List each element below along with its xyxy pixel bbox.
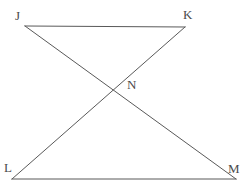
vertex-label-l: L xyxy=(4,161,12,174)
vertex-label-k: K xyxy=(183,8,192,21)
vertex-label-m: M xyxy=(228,162,240,175)
segments-group xyxy=(12,26,236,179)
segment-jm xyxy=(25,26,236,179)
geometry-figure: J K N L M xyxy=(0,0,247,183)
figure-canvas xyxy=(0,0,247,183)
segment-jk xyxy=(25,26,185,27)
vertex-label-j: J xyxy=(15,9,20,22)
vertex-label-n: N xyxy=(127,78,136,91)
segment-kl xyxy=(12,27,185,179)
